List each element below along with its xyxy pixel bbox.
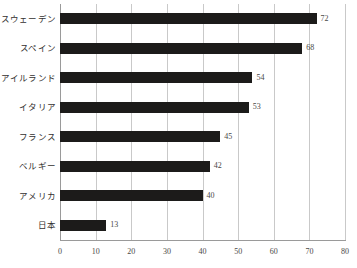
bar (60, 72, 252, 83)
bar-value-label: 42 (214, 162, 222, 170)
bar-row: ベルギー42 (0, 152, 357, 182)
bar-value-label: 45 (224, 133, 232, 141)
x-tick-label: 60 (270, 248, 278, 256)
x-axis-tick-labels: 01020304050607080 (0, 244, 357, 264)
bar (60, 190, 203, 201)
x-tick-label: 70 (305, 248, 313, 256)
category-label: フランス (0, 133, 56, 142)
category-label: イタリア (0, 103, 56, 112)
bar-row: イタリア53 (0, 93, 357, 123)
bar (60, 161, 210, 172)
bar-row: スウェーデン72 (0, 4, 357, 34)
bar-value-label: 72 (321, 15, 329, 23)
bar-value-label: 53 (253, 103, 261, 111)
category-label: スペイン (0, 44, 56, 53)
category-label: アメリカ (0, 192, 56, 201)
bar-value-label: 13 (110, 221, 118, 229)
category-label: ベルギー (0, 162, 56, 171)
bar-row: スペイン68 (0, 34, 357, 64)
bar-row: 日本13 (0, 211, 357, 241)
bar-value-label: 54 (256, 74, 264, 82)
category-label: アイルランド (0, 74, 56, 83)
bar (60, 13, 317, 24)
x-tick-label: 50 (234, 248, 242, 256)
x-tick-label: 30 (163, 248, 171, 256)
bar-row: アイルランド54 (0, 63, 357, 93)
x-axis-line (60, 240, 346, 241)
bar-value-label: 40 (207, 192, 215, 200)
bar-rows: スウェーデン72スペイン68アイルランド54イタリア53フランス45ベルギー42… (0, 4, 357, 240)
bar (60, 102, 249, 113)
x-tick-label: 40 (199, 248, 207, 256)
bar-chart: スウェーデン72スペイン68アイルランド54イタリア53フランス45ベルギー42… (0, 0, 357, 268)
bar-row: フランス45 (0, 122, 357, 152)
category-label: スウェーデン (0, 15, 56, 24)
bar (60, 43, 302, 54)
x-tick-label: 80 (341, 248, 349, 256)
x-tick-label: 10 (92, 248, 100, 256)
bar-value-label: 68 (306, 44, 314, 52)
x-tick-label: 0 (58, 248, 62, 256)
bar (60, 220, 106, 231)
bar-row: アメリカ40 (0, 181, 357, 211)
bar (60, 131, 220, 142)
category-label: 日本 (0, 221, 56, 230)
x-tick-label: 20 (127, 248, 135, 256)
